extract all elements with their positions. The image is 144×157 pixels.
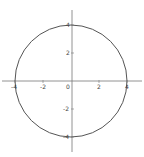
x-tick-label: 0	[66, 83, 70, 90]
y-tick-label: -4	[63, 133, 69, 140]
x-tick-label: -2	[40, 83, 46, 90]
y-tick-label: -2	[63, 105, 69, 112]
x-tick-label: -4	[11, 83, 17, 90]
y-tick-label: 4	[66, 21, 70, 28]
x-tick-label: 4	[125, 83, 129, 90]
y-tick-label: 2	[66, 49, 70, 56]
x-tick-label: 2	[97, 83, 101, 90]
circle-plot: -4 -2 0 2 4 4 2 -2 -4	[0, 0, 144, 157]
x-ticks	[15, 80, 127, 83]
